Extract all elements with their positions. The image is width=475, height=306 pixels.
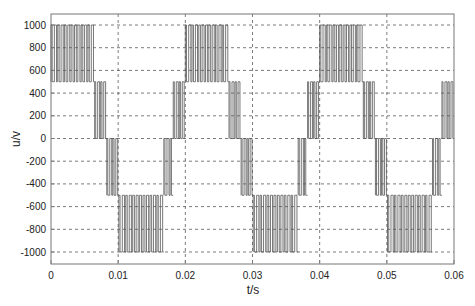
y-tick-label: 600 <box>29 65 46 76</box>
y-tick-label: 1000 <box>24 20 47 31</box>
y-axis-ticks: 10008006004002000-200-400-600-800-1000 <box>20 20 55 258</box>
x-tick-label: 0.02 <box>176 270 196 281</box>
x-tick-label: 0.04 <box>310 270 330 281</box>
y-tick-label: -400 <box>26 178 46 189</box>
y-tick-label: -600 <box>26 201 46 212</box>
y-tick-label: 400 <box>29 88 46 99</box>
y-tick-label: -1000 <box>20 247 46 258</box>
y-tick-label: 200 <box>29 110 46 121</box>
x-tick-label: 0.01 <box>108 270 128 281</box>
x-tick-label: 0.05 <box>377 270 397 281</box>
waveform-chart: 00.010.020.030.040.050.06 10008006004002… <box>0 0 475 306</box>
y-tick-label: 800 <box>29 42 46 53</box>
x-axis-label: t/s <box>247 283 260 297</box>
y-tick-label: -800 <box>26 224 46 235</box>
x-tick-label: 0.06 <box>444 270 464 281</box>
x-tick-label: 0 <box>48 270 54 281</box>
y-tick-label: 0 <box>40 133 46 144</box>
y-axis-label: u/v <box>9 131 23 147</box>
x-tick-label: 0.03 <box>243 270 263 281</box>
y-tick-label: -200 <box>26 156 46 167</box>
